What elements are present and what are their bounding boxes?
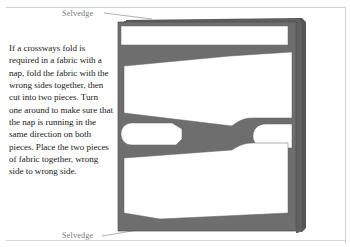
- instruction-text: If a crossways fold is required in a fab…: [9, 42, 113, 178]
- selvedge-label-top: Selvedge: [62, 9, 93, 18]
- selvedge-label-bottom: Selvedge: [62, 231, 93, 240]
- illustration-page: If a crossways fold is required in a fab…: [0, 0, 350, 247]
- piece-left-small-wedge: [121, 123, 182, 145]
- selvedge-top-leader-line: [104, 13, 152, 19]
- piece-top-strip: [121, 26, 288, 45]
